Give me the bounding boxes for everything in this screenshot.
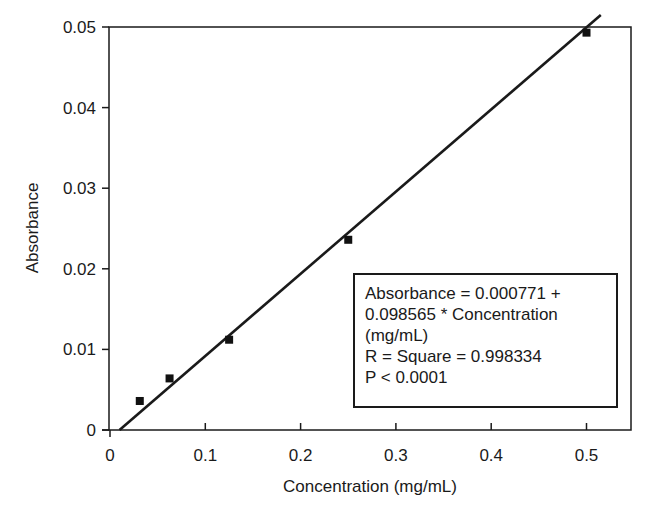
- data-point-marker: [166, 374, 174, 382]
- y-tick-label: 0: [87, 421, 96, 440]
- annotation-line: Absorbance = 0.000771 +: [365, 283, 616, 304]
- y-tick-label: 0.02: [63, 260, 96, 279]
- y-tick-label: 0.04: [63, 99, 96, 118]
- x-tick-label: 0.4: [479, 446, 503, 465]
- y-tick-label: 0.05: [63, 18, 96, 37]
- data-point-marker: [225, 336, 233, 344]
- x-tick-label: 0.3: [384, 446, 408, 465]
- annotation-line: P < 0.0001: [365, 367, 616, 388]
- y-tick-label: 0.01: [63, 340, 96, 359]
- data-point-marker: [583, 29, 591, 37]
- x-tick-label: 0.1: [193, 446, 217, 465]
- annotation-line: R = Square = 0.998334: [365, 346, 616, 367]
- data-point-marker: [136, 397, 144, 405]
- regression-annotation-box: Absorbance = 0.000771 + 0.098565 * Conce…: [353, 273, 618, 408]
- x-tick-label: 0.5: [575, 446, 599, 465]
- annotation-line: (mg/mL): [365, 325, 616, 346]
- annotation-line: 0.098565 * Concentration: [365, 304, 616, 325]
- x-tick-label: 0.2: [289, 446, 313, 465]
- chart-canvas: 00.010.020.030.040.05 00.10.20.30.40.5 C…: [0, 0, 647, 510]
- x-tick-label: 0: [105, 446, 114, 465]
- y-axis: 00.010.020.030.040.05: [63, 18, 109, 440]
- data-point-marker: [344, 236, 352, 244]
- y-tick-label: 0.03: [63, 179, 96, 198]
- y-axis-title: Absorbance: [23, 183, 42, 274]
- x-axis-title: Concentration (mg/mL): [283, 477, 457, 496]
